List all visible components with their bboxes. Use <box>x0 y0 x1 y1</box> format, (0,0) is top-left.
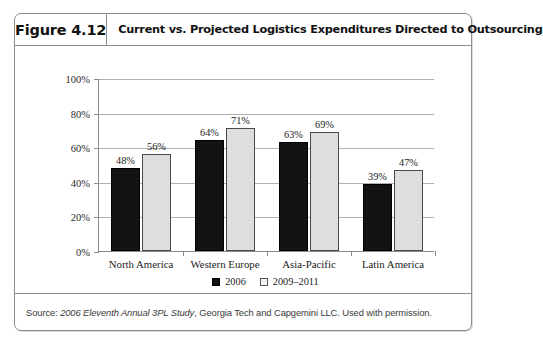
bar-series1[interactable] <box>279 142 308 251</box>
bar-series1[interactable] <box>195 140 224 251</box>
figure-header: Figure 4.12 Current vs. Projected Logist… <box>15 14 471 46</box>
bar-wrapper: 64% <box>195 79 224 251</box>
bar-series1[interactable] <box>363 184 392 251</box>
x-axis-category-label: North America <box>109 258 173 270</box>
bar-group: 39%47%Latin America <box>351 79 435 251</box>
y-axis-tick-label: 40% <box>71 177 90 188</box>
figure-title-label: Current vs. Projected Logistics Expendit… <box>118 23 542 36</box>
figure-frame: Figure 4.12 Current vs. Projected Logist… <box>14 13 472 331</box>
legend-item[interactable]: 2006 <box>212 276 246 287</box>
legend-label: 2009–2011 <box>273 276 319 287</box>
source-note: Source: 2006 Eleventh Annual 3PL Study, … <box>26 307 432 318</box>
x-axis-category-separator <box>351 251 352 256</box>
x-axis-category-separator <box>183 251 184 256</box>
bar-value-label: 39% <box>368 171 387 182</box>
y-axis-tick-label: 20% <box>71 212 90 223</box>
bar-wrapper: 48% <box>111 79 140 251</box>
bar-wrapper: 47% <box>394 79 423 251</box>
bar-value-label: 63% <box>284 129 303 140</box>
bar-wrapper: 56% <box>142 79 171 251</box>
x-axis-category-separator <box>267 251 268 256</box>
bar-value-label: 47% <box>399 157 418 168</box>
bar-series2[interactable] <box>310 132 339 251</box>
y-axis-tick-label: 60% <box>71 143 90 154</box>
legend-label: 2006 <box>225 276 246 287</box>
chart-legend: 20062009–2011 <box>98 276 433 287</box>
x-axis-category-label: Western Europe <box>191 258 260 270</box>
x-axis-category-label: Latin America <box>362 258 424 270</box>
y-axis-tick-label: 100% <box>66 74 91 85</box>
y-axis-tick-label: 0% <box>76 247 90 258</box>
figure-number-cell: Figure 4.12 <box>15 14 107 45</box>
legend-swatch-icon <box>212 278 220 286</box>
bar-value-label: 56% <box>147 141 166 152</box>
bar-series2[interactable] <box>394 170 423 251</box>
bar-group: 63%69%Asia-Pacific <box>267 79 351 251</box>
bar-series2[interactable] <box>142 154 171 251</box>
x-axis-category-separator <box>435 251 436 256</box>
figure-title-cell: Current vs. Projected Logistics Expendit… <box>107 14 542 45</box>
bar-value-label: 64% <box>200 127 219 138</box>
x-axis-category-label: Asia-Pacific <box>282 258 335 270</box>
bar-value-label: 71% <box>231 115 250 126</box>
y-axis-tick <box>94 252 99 253</box>
bar-wrapper: 69% <box>310 79 339 251</box>
bar-wrapper: 39% <box>363 79 392 251</box>
bar-series2[interactable] <box>226 128 255 251</box>
chart-body: 0%20%40%60%80%100%48%56%North America64%… <box>15 46 471 293</box>
chart-plot-area: 0%20%40%60%80%100%48%56%North America64%… <box>98 79 434 252</box>
bar-group: 64%71%Western Europe <box>183 79 267 251</box>
legend-item[interactable]: 2009–2011 <box>260 276 319 287</box>
bar-series1[interactable] <box>111 168 140 251</box>
bar-group: 48%56%North America <box>99 79 183 251</box>
bar-value-label: 48% <box>116 155 135 166</box>
bar-wrapper: 71% <box>226 79 255 251</box>
bar-wrapper: 63% <box>279 79 308 251</box>
figure-number-label: Figure 4.12 <box>15 22 106 38</box>
bar-value-label: 69% <box>315 119 334 130</box>
y-axis-tick-label: 80% <box>71 108 90 119</box>
source-box: Source: 2006 Eleventh Annual 3PL Study, … <box>15 293 471 330</box>
source-study-title: 2006 Eleventh Annual 3PL Study <box>60 307 194 318</box>
legend-swatch-icon <box>260 278 268 286</box>
